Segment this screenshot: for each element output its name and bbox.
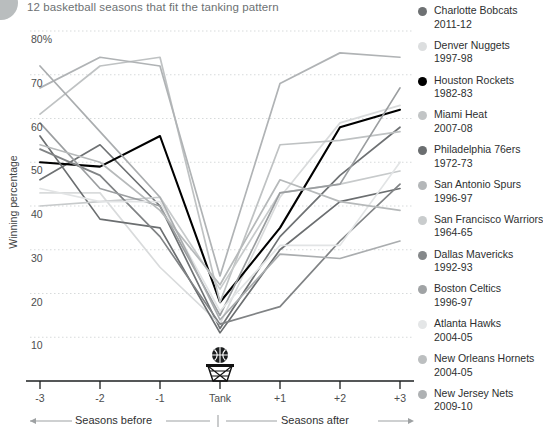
legend-season: 1964-65	[434, 226, 543, 240]
series-line	[40, 171, 400, 289]
x-axis-tick-label: -2	[74, 392, 126, 404]
legend-season: 2009-10	[434, 400, 513, 414]
legend-team-name: Charlotte Bobcats	[434, 4, 517, 18]
y-axis-tick-label: 60	[31, 121, 43, 133]
legend-season: 1997-98	[434, 52, 510, 66]
basketball-hoop-icon	[206, 364, 234, 381]
legend-item[interactable]: San Francisco Warriors1964-65	[418, 213, 543, 246]
series-line	[40, 127, 400, 328]
x-axis-tick-label: Tank	[194, 392, 246, 404]
legend-color-dot	[418, 390, 427, 399]
series-lines	[40, 53, 400, 333]
legend-season: 2007-08	[434, 122, 487, 136]
y-axis-tick-label: 50	[31, 164, 43, 176]
legend-team-name: New Jersey Nets	[434, 387, 513, 401]
legend-item[interactable]: Boston Celtics1996-97	[418, 282, 543, 315]
legend-season: 1992-93	[434, 261, 513, 275]
x-axis-ticks	[40, 381, 400, 389]
seasons-after-label: Seasons after	[281, 414, 349, 426]
legend-color-dot	[418, 42, 427, 51]
legend-season: 1996-97	[434, 296, 501, 310]
legend-item[interactable]: Houston Rockets1982-83	[418, 74, 543, 107]
legend-season: 2004-05	[434, 366, 534, 380]
legend-item[interactable]: Miami Heat2007-08	[418, 108, 543, 141]
legend-team-name: Houston Rockets	[434, 74, 514, 88]
legend-item[interactable]: Atlanta Hawks2004-05	[418, 317, 543, 350]
y-axis-tick-label: 40	[31, 208, 43, 220]
y-axis-tick-label: 20	[31, 296, 43, 308]
legend-color-dot	[418, 146, 427, 155]
legend-color-dot	[418, 7, 427, 16]
plot-area: Winning percentage	[0, 0, 420, 428]
legend-team-name: Atlanta Hawks	[434, 317, 501, 331]
basketball-icon	[212, 347, 228, 363]
y-axis-tick-label: 30	[31, 252, 43, 264]
legend-team-name: San Francisco Warriors	[434, 213, 543, 227]
legend-item[interactable]: Dallas Mavericks1992-93	[418, 248, 543, 281]
seasons-before-label: Seasons before	[75, 414, 152, 426]
legend-team-name: Philadelphia 76ers	[434, 143, 520, 157]
legend-team-name: Dallas Mavericks	[434, 248, 513, 262]
x-axis-tick-label: -1	[134, 392, 186, 404]
legend-item[interactable]: Denver Nuggets1997-98	[418, 39, 543, 72]
x-axis-tick-label: -3	[14, 392, 66, 404]
legend-color-dot	[418, 320, 427, 329]
legend-color-dot	[418, 251, 427, 260]
chart-root: 12 basketball seasons that fit the tanki…	[0, 0, 543, 428]
legend-season: 1972-73	[434, 157, 520, 171]
legend-color-dot	[418, 77, 427, 86]
legend-season: 1982-83	[434, 87, 514, 101]
legend-item[interactable]: New Orleans Hornets2004-05	[418, 352, 543, 385]
y-axis-tick-label: 80%	[31, 33, 52, 45]
legend-item[interactable]: San Antonio Spurs1996-97	[418, 178, 543, 211]
legend-color-dot	[418, 181, 427, 190]
legend-item[interactable]: Charlotte Bobcats2011-12	[418, 4, 543, 37]
y-axis-tick-label: 70	[31, 77, 43, 89]
legend-season: 2011-12	[434, 18, 517, 32]
legend-item[interactable]: New Jersey Nets2009-10	[418, 387, 543, 420]
legend-color-dot	[418, 355, 427, 364]
legend-item[interactable]: Philadelphia 76ers1972-73	[418, 143, 543, 176]
series-line	[40, 53, 400, 276]
legend-season: 1996-97	[434, 192, 521, 206]
legend-season: 2004-05	[434, 331, 501, 345]
legend-color-dot	[418, 285, 427, 294]
legend-team-name: San Antonio Spurs	[434, 178, 521, 192]
y-axis-tick-label: 10	[31, 339, 43, 351]
legend-color-dot	[418, 111, 427, 120]
series-line	[40, 105, 400, 324]
x-axis-tick-label: +1	[254, 392, 306, 404]
legend-team-name: New Orleans Hornets	[434, 352, 534, 366]
x-axis-tick-label: +2	[314, 392, 366, 404]
chart-canvas	[0, 0, 420, 428]
legend-team-name: Boston Celtics	[434, 282, 501, 296]
legend: Charlotte Bobcats2011-12Denver Nuggets19…	[418, 0, 543, 428]
series-line	[40, 57, 400, 302]
legend-team-name: Miami Heat	[434, 108, 487, 122]
legend-team-name: Denver Nuggets	[434, 39, 510, 53]
legend-color-dot	[418, 216, 427, 225]
